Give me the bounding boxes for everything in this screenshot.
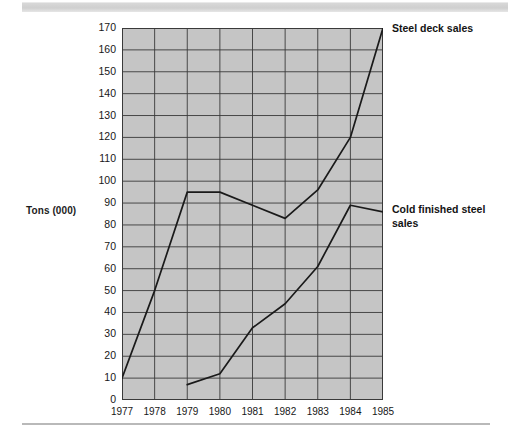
series-label-cold-finished: Cold finished steel sales bbox=[392, 203, 497, 230]
y-axis-title: Tons (000) bbox=[26, 205, 76, 216]
vertical-gridlines bbox=[155, 28, 351, 400]
y-tick-90: 90 bbox=[76, 196, 116, 208]
y-tick-0: 0 bbox=[76, 393, 116, 405]
y-tick-10: 10 bbox=[76, 371, 116, 383]
y-tick-20: 20 bbox=[76, 349, 116, 361]
y-tick-60: 60 bbox=[76, 262, 116, 274]
plot-area bbox=[122, 28, 383, 400]
plot-canvas bbox=[122, 28, 383, 400]
y-tick-70: 70 bbox=[76, 240, 116, 252]
y-tick-160: 160 bbox=[76, 43, 116, 55]
y-tick-120: 120 bbox=[76, 130, 116, 142]
y-tick-80: 80 bbox=[76, 218, 116, 230]
y-tick-140: 140 bbox=[76, 87, 116, 99]
y-tick-30: 30 bbox=[76, 327, 116, 339]
series-label-steel-deck: Steel deck sales bbox=[392, 22, 473, 36]
y-tick-100: 100 bbox=[76, 174, 116, 186]
y-tick-110: 110 bbox=[76, 152, 116, 164]
y-tick-170: 170 bbox=[76, 21, 116, 33]
bottom-rule bbox=[22, 423, 490, 425]
y-tick-130: 130 bbox=[76, 109, 116, 121]
chart-figure: Tons (000) 01020304050607080901001101201… bbox=[0, 0, 512, 441]
x-tick-1985: 1985 bbox=[363, 406, 403, 417]
y-tick-150: 150 bbox=[76, 65, 116, 77]
y-tick-50: 50 bbox=[76, 284, 116, 296]
y-tick-40: 40 bbox=[76, 305, 116, 317]
